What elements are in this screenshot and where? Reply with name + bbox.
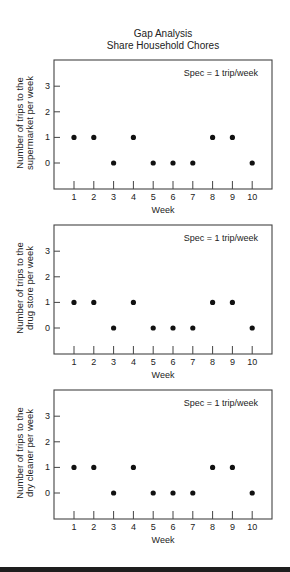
x-tick-label: 8 [210, 522, 215, 532]
data-point [230, 300, 235, 305]
chart-panel-1: 012312345678910WeekNumber of trips to th… [14, 60, 272, 215]
y-axis-label-line: drug store per week [24, 246, 35, 330]
x-tick-label: 7 [190, 522, 195, 532]
x-tick-label: 9 [230, 357, 235, 367]
y-tick-label: 0 [45, 323, 50, 333]
data-point [91, 465, 96, 470]
x-tick-label: 10 [247, 522, 257, 532]
y-tick-label: 2 [45, 107, 50, 117]
data-point [91, 135, 96, 140]
x-tick-label: 9 [230, 192, 235, 202]
x-axis-label: Week [152, 535, 175, 545]
x-tick-label: 10 [247, 357, 257, 367]
x-tick-label: 6 [170, 192, 175, 202]
x-axis-label: Week [152, 370, 175, 380]
x-tick-label: 7 [190, 192, 195, 202]
data-point [151, 490, 156, 495]
y-tick-label: 0 [45, 158, 50, 168]
data-point [111, 325, 116, 330]
y-tick-label: 3 [45, 411, 50, 421]
x-tick-label: 3 [111, 357, 116, 367]
data-point [230, 465, 235, 470]
y-tick-label: 1 [45, 462, 50, 472]
x-tick-label: 3 [111, 192, 116, 202]
data-point [170, 160, 175, 165]
x-tick-label: 10 [247, 192, 257, 202]
data-point [151, 160, 156, 165]
data-point [71, 300, 76, 305]
y-axis-label-line: dry cleaner per week [24, 409, 35, 497]
data-point [250, 490, 255, 495]
x-tick-label: 8 [210, 357, 215, 367]
x-tick-label: 9 [230, 522, 235, 532]
data-point [190, 160, 195, 165]
y-tick-label: 3 [45, 246, 50, 256]
plot-frame [54, 225, 272, 354]
charts-canvas: 012312345678910WeekNumber of trips to th… [0, 0, 290, 572]
data-point [210, 465, 215, 470]
x-tick-label: 6 [170, 357, 175, 367]
data-point [230, 135, 235, 140]
y-axis-label-line: supermarket per week [24, 76, 35, 170]
x-tick-label: 2 [91, 522, 96, 532]
data-point [170, 490, 175, 495]
x-tick-label: 8 [210, 192, 215, 202]
plot-frame [54, 390, 272, 519]
data-point [190, 325, 195, 330]
x-tick-label: 5 [151, 192, 156, 202]
x-tick-label: 4 [131, 522, 136, 532]
data-point [71, 465, 76, 470]
spec-annotation: Spec = 1 trip/week [184, 398, 259, 408]
bottom-divider-bar [0, 567, 290, 572]
data-point [111, 160, 116, 165]
x-tick-label: 2 [91, 192, 96, 202]
x-tick-label: 6 [170, 522, 175, 532]
spec-annotation: Spec = 1 trip/week [184, 233, 259, 243]
x-tick-label: 2 [91, 357, 96, 367]
plot-frame [54, 60, 272, 189]
x-tick-label: 1 [71, 522, 76, 532]
data-point [190, 490, 195, 495]
y-tick-label: 0 [45, 488, 50, 498]
x-tick-label: 4 [131, 357, 136, 367]
y-tick-label: 1 [45, 297, 50, 307]
x-tick-label: 5 [151, 357, 156, 367]
x-tick-label: 1 [71, 192, 76, 202]
x-tick-label: 7 [190, 357, 195, 367]
data-point [250, 160, 255, 165]
data-point [210, 300, 215, 305]
data-point [151, 325, 156, 330]
data-point [131, 300, 136, 305]
data-point [131, 465, 136, 470]
y-tick-label: 1 [45, 132, 50, 142]
data-point [111, 490, 116, 495]
data-point [250, 325, 255, 330]
x-axis-label: Week [152, 205, 175, 215]
data-point [131, 135, 136, 140]
y-tick-label: 2 [45, 437, 50, 447]
x-tick-label: 5 [151, 522, 156, 532]
data-point [91, 300, 96, 305]
data-point [71, 135, 76, 140]
chart-panel-2: 012312345678910WeekNumber of trips to th… [14, 225, 272, 380]
data-point [170, 325, 175, 330]
x-tick-label: 4 [131, 192, 136, 202]
spec-annotation: Spec = 1 trip/week [184, 68, 259, 78]
x-tick-label: 1 [71, 357, 76, 367]
y-tick-label: 2 [45, 272, 50, 282]
x-tick-label: 3 [111, 522, 116, 532]
y-tick-label: 3 [45, 81, 50, 91]
chart-panel-3: 012312345678910WeekNumber of trips to th… [14, 390, 272, 545]
data-point [210, 135, 215, 140]
